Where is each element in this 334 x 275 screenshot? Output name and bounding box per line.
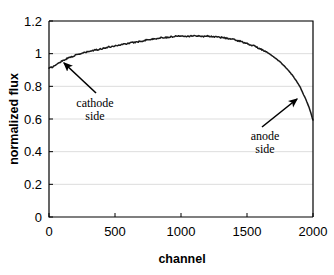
- chart-svg: 00.20.40.60.811.2 0500100015002000 chann…: [0, 0, 334, 275]
- x-tick-label-4: 2000: [299, 224, 328, 239]
- annotation-cathode-line2: side: [85, 109, 104, 123]
- x-tick-label-0: 0: [45, 224, 52, 239]
- x-tick-label-3: 1500: [233, 224, 262, 239]
- x-axis-title: channel: [158, 252, 205, 266]
- y-tick-label-3: 0.6: [24, 112, 42, 127]
- y-tick-label-4: 0.8: [24, 79, 42, 94]
- x-tick-label-2: 1000: [167, 224, 196, 239]
- y-tick-label-5: 1: [35, 46, 42, 61]
- x-tick-label-1: 500: [104, 224, 126, 239]
- y-tick-label-0: 0: [35, 210, 42, 225]
- x-tick-labels: 0500100015002000: [45, 224, 327, 239]
- y-axis-title: normalized flux: [7, 73, 21, 165]
- annotation-cathode-line1: cathode: [76, 96, 113, 110]
- annotation-anode-line1: anode: [251, 129, 280, 143]
- y-tick-label-1: 0.2: [24, 177, 42, 192]
- y-tick-label-2: 0.4: [24, 144, 42, 159]
- annotation-anode-line2: side: [255, 142, 274, 156]
- y-tick-labels: 00.20.40.60.811.2: [24, 14, 42, 225]
- y-tick-label-6: 1.2: [24, 14, 42, 29]
- chart-figure: 00.20.40.60.811.2 0500100015002000 chann…: [0, 0, 334, 275]
